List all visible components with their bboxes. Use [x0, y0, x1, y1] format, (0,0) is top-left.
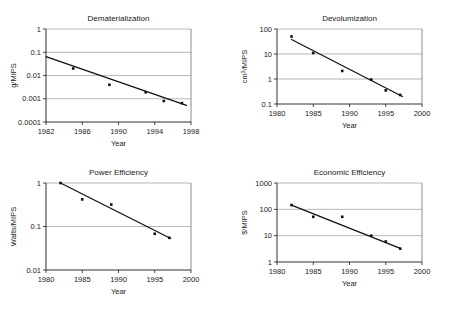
data-point — [399, 247, 402, 250]
x-tick-label: 1998 — [183, 127, 200, 136]
x-axis-title: Year — [342, 121, 358, 130]
chart-svg: 0.111010019801985199019952000Devolumizat… — [231, 0, 461, 158]
data-point — [168, 236, 171, 239]
y-tick-label: 100 — [259, 25, 272, 34]
chart-svg: 0.010.1119801985199019952000Power Effici… — [0, 158, 230, 316]
x-tick-label: 1985 — [74, 275, 91, 284]
data-point — [163, 100, 166, 103]
chart-panel-economic-efficiency: 110100100019801985199019952000Economic E… — [231, 158, 461, 316]
x-tick-label: 1990 — [341, 267, 358, 276]
y-axis-title: $/MIPS — [240, 210, 249, 235]
data-point — [110, 203, 113, 206]
figure-canvas: 0.00010.0010.010.1119821986199019941998D… — [0, 0, 461, 317]
x-tick-label: 1990 — [110, 275, 127, 284]
y-axis-title: Watts/MIPS — [9, 207, 18, 246]
x-tick-label: 1990 — [110, 127, 127, 136]
x-tick-label: 1980 — [38, 275, 55, 284]
data-point — [59, 182, 62, 185]
y-tick-label: 100 — [259, 205, 272, 214]
data-point — [312, 52, 315, 55]
chart-panel-dematerialization: 0.00010.0010.010.1119821986199019941998D… — [0, 0, 230, 158]
y-tick-label: 1 — [268, 258, 272, 267]
x-tick-label: 1980 — [269, 267, 286, 276]
trend-line — [61, 183, 171, 238]
y-tick-label: 0.1 — [31, 222, 41, 231]
trend-line — [292, 205, 401, 248]
data-point — [290, 35, 293, 38]
data-point — [384, 240, 387, 243]
y-tick-label: 1 — [37, 179, 41, 188]
x-tick-label: 1985 — [305, 267, 322, 276]
data-point — [312, 216, 315, 219]
y-tick-label: 0.1 — [262, 100, 272, 109]
y-tick-label: 0.001 — [22, 94, 41, 103]
x-tick-label: 1980 — [269, 109, 286, 118]
y-tick-label: 0.0001 — [18, 118, 41, 127]
x-tick-label: 1995 — [146, 275, 163, 284]
x-tick-label: 1995 — [377, 109, 394, 118]
y-tick-label: 0.1 — [31, 48, 41, 57]
data-point — [181, 102, 184, 105]
y-tick-label: 0.01 — [26, 266, 41, 275]
chart-panel-devolumization: 0.111010019801985199019952000Devolumizat… — [231, 0, 461, 158]
data-point — [384, 89, 387, 92]
chart-panel-power-efficiency: 0.010.1119801985199019952000Power Effici… — [0, 158, 230, 316]
data-point — [399, 94, 402, 97]
data-point — [108, 83, 111, 86]
y-axis-title: cm3/MIPS — [240, 50, 249, 83]
y-tick-label: 10 — [264, 50, 272, 59]
chart-title: Devolumization — [322, 14, 377, 23]
y-tick-label: 1 — [268, 75, 272, 84]
chart-title: Dematerialization — [88, 14, 150, 23]
x-tick-label: 1986 — [74, 127, 91, 136]
data-point — [144, 91, 147, 94]
x-tick-label: 2000 — [414, 267, 431, 276]
chart-svg: 0.00010.0010.010.1119821986199019941998D… — [0, 0, 230, 158]
data-point — [341, 70, 344, 73]
chart-title: Power Efficiency — [89, 168, 148, 177]
data-point — [72, 67, 75, 70]
x-axis-title: Year — [342, 279, 358, 288]
y-tick-label: 1 — [37, 25, 41, 34]
x-axis-title: Year — [111, 139, 127, 148]
chart-title: Economic Efficiency — [314, 168, 385, 177]
trend-line — [46, 57, 186, 106]
data-point — [153, 232, 156, 235]
x-tick-label: 1985 — [305, 109, 322, 118]
x-tick-label: 1990 — [341, 109, 358, 118]
x-tick-label: 2000 — [414, 109, 431, 118]
y-axis-title: g/MIPS — [9, 63, 18, 88]
y-tick-label: 1000 — [255, 179, 272, 188]
trend-line — [292, 40, 403, 97]
x-tick-label: 1982 — [38, 127, 55, 136]
y-tick-label: 0.01 — [26, 71, 41, 80]
x-tick-label: 1995 — [377, 267, 394, 276]
y-tick-label: 10 — [264, 231, 272, 240]
x-tick-label: 1994 — [146, 127, 163, 136]
data-point — [341, 216, 344, 219]
data-point — [370, 78, 373, 81]
x-tick-label: 2000 — [183, 275, 200, 284]
data-point — [81, 198, 84, 201]
data-point — [290, 204, 293, 207]
chart-svg: 110100100019801985199019952000Economic E… — [231, 158, 461, 316]
data-point — [370, 234, 373, 237]
x-axis-title: Year — [111, 287, 127, 296]
